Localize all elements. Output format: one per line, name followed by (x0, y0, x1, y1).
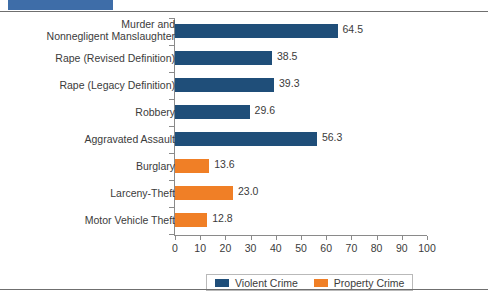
bar-row: Aggravated Assault56.3 (0, 126, 488, 153)
legend-item: Violent Crime (215, 277, 298, 289)
bar-value-label: 29.6 (255, 104, 275, 116)
bar-row: Murder andNonnegligent Manslaughter64.5 (0, 18, 488, 45)
y-axis-tick (169, 207, 174, 208)
category-label: Burglary (0, 160, 175, 172)
bar-value-label: 13.6 (214, 158, 234, 170)
x-axis-tick-label: 100 (412, 242, 442, 254)
y-axis-tick (169, 126, 174, 127)
category-label-line: Rape (Legacy Definition) (0, 79, 175, 91)
legend-label: Property Crime (334, 277, 405, 289)
bar-row: Robbery29.6 (0, 99, 488, 126)
x-axis-tick (200, 236, 201, 240)
y-axis-tick (169, 180, 174, 181)
bar-property-crime (175, 159, 209, 173)
bar-value-label: 12.8 (212, 212, 232, 224)
category-label: Larceny-Theft (0, 187, 175, 199)
bar-violent-crime (175, 51, 272, 65)
bar-row: Motor Vehicle Theft12.8 (0, 207, 488, 234)
bar-value-label: 56.3 (322, 131, 342, 143)
category-label-line: Aggravated Assault (0, 133, 175, 145)
bar-violent-crime (175, 24, 338, 38)
category-label: Rape (Revised Definition) (0, 52, 175, 64)
bar-row: Burglary13.6 (0, 153, 488, 180)
category-label-line: Murder and (0, 18, 175, 30)
category-label-line: Motor Vehicle Theft (0, 214, 175, 226)
category-label-line: Burglary (0, 160, 175, 172)
x-axis-tick (402, 236, 403, 240)
bar-violent-crime (175, 78, 274, 92)
bar-row: Larceny-Theft23.0 (0, 180, 488, 207)
y-axis-tick (169, 153, 174, 154)
bar-violent-crime (175, 105, 250, 119)
bar-property-crime (175, 213, 207, 227)
bar-value-label: 64.5 (343, 23, 363, 35)
category-label: Rape (Legacy Definition) (0, 79, 175, 91)
bar-value-label: 38.5 (277, 50, 297, 62)
category-label: Aggravated Assault (0, 133, 175, 145)
y-axis-tick (169, 72, 174, 73)
x-axis-tick (351, 236, 352, 240)
bar-value-label: 39.3 (279, 77, 299, 89)
y-axis-tick (169, 99, 174, 100)
bar-property-crime (175, 186, 233, 200)
x-axis-tick (175, 236, 176, 240)
bar-value-label: 23.0 (238, 185, 258, 197)
category-label-line: Robbery (0, 106, 175, 118)
bar-row: Rape (Legacy Definition)39.3 (0, 72, 488, 99)
bottom-divider-rule (0, 289, 488, 290)
y-axis-tick (169, 45, 174, 46)
category-label-line: Larceny-Theft (0, 187, 175, 199)
legend-swatch (314, 279, 328, 287)
x-axis-tick (301, 236, 302, 240)
plot-area: Murder andNonnegligent Manslaughter64.5R… (0, 12, 488, 242)
category-label-line: Nonnegligent Manslaughter (0, 30, 175, 42)
legend-swatch (215, 279, 229, 287)
category-label: Robbery (0, 106, 175, 118)
bar-row: Rape (Revised Definition)38.5 (0, 45, 488, 72)
x-axis-tick (276, 236, 277, 240)
x-axis-tick (326, 236, 327, 240)
category-label-line: Rape (Revised Definition) (0, 52, 175, 64)
x-axis-tick (377, 236, 378, 240)
x-axis-tick (225, 236, 226, 240)
legend-item: Property Crime (314, 277, 405, 289)
legend-label: Violent Crime (235, 277, 298, 289)
bar-violent-crime (175, 132, 317, 146)
category-label: Motor Vehicle Theft (0, 214, 175, 226)
top-banner-tab (8, 0, 113, 10)
x-axis-tick (251, 236, 252, 240)
x-axis-tick (427, 236, 428, 240)
chart-figure: Murder andNonnegligent Manslaughter64.5R… (0, 12, 488, 288)
category-label: Murder andNonnegligent Manslaughter (0, 18, 175, 42)
y-axis-tick (169, 18, 174, 19)
y-axis-tick (169, 234, 174, 235)
